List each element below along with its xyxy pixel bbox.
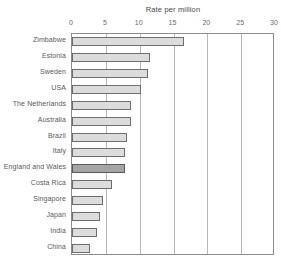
bar-usa	[72, 85, 141, 94]
category-label-costa-rica: Costa Rica	[31, 179, 66, 186]
bar-china	[72, 244, 90, 253]
category-label-japan: Japan	[46, 211, 66, 218]
category-label-usa: USA	[51, 84, 66, 91]
bar-zimbabwe	[72, 37, 184, 46]
x-tick-label-5: 5	[103, 19, 107, 26]
plot-area	[71, 33, 274, 255]
category-label-italy: Italy	[53, 147, 66, 154]
bar-estonia	[72, 53, 150, 62]
bar-sweden	[72, 69, 148, 78]
bar-the-netherlands	[72, 101, 131, 110]
bar-england-and-wales	[72, 164, 125, 173]
category-label-china: China	[47, 243, 66, 250]
category-label-australia: Australia	[38, 116, 66, 123]
category-label-estonia: Estonia	[42, 52, 66, 59]
category-label-zimbabwe: Zimbabwe	[33, 36, 66, 43]
bar-italy	[72, 148, 125, 157]
x-tick-label-30: 30	[270, 19, 278, 26]
bar-australia	[72, 117, 131, 126]
x-tick-label-25: 25	[236, 19, 244, 26]
x-tick-label-0: 0	[69, 19, 73, 26]
x-tick-label-10: 10	[135, 19, 143, 26]
category-label-sweden: Sweden	[40, 68, 66, 75]
bar-india	[72, 228, 97, 237]
x-axis-tick-labels: 051015202530	[0, 19, 281, 30]
category-label-the-netherlands: The Netherlands	[13, 100, 66, 107]
bar-singapore	[72, 196, 103, 205]
category-label-singapore: Singapore	[33, 195, 66, 202]
bar-costa-rica	[72, 180, 112, 189]
x-tick-label-20: 20	[202, 19, 210, 26]
category-label-brazil: Brazil	[48, 132, 66, 139]
bar-chart-figure: Rate per million 051015202530 ZimbabweEs…	[0, 0, 281, 268]
category-label-england-and-wales: England and Wales	[4, 163, 66, 170]
y-axis-category-labels: ZimbabweEstoniaSwedenUSAThe NetherlandsA…	[0, 33, 69, 255]
category-label-india: India	[50, 227, 66, 234]
x-tick-label-15: 15	[169, 19, 177, 26]
bar-japan	[72, 212, 100, 221]
bar-brazil	[72, 133, 127, 142]
chart-title: Rate per million	[71, 5, 275, 14]
bars-layer	[72, 34, 273, 254]
